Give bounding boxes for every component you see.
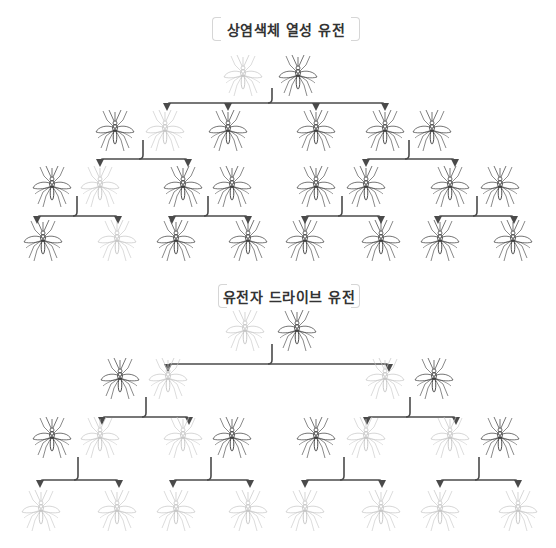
arrow-icon	[172, 216, 175, 220]
mosquito-carrier-icon	[481, 417, 519, 458]
mosquito-non-carrier-icon	[98, 220, 136, 261]
mosquito-carrier-icon	[297, 166, 335, 207]
mosquito-non-carrier-icon	[347, 417, 385, 458]
mosquito-carrier-icon	[494, 220, 532, 261]
arrow-icon	[185, 159, 188, 163]
mosquito-carrier-icon	[415, 358, 453, 399]
arrow-icon	[167, 103, 170, 107]
mosquito-carrier-icon	[421, 220, 459, 261]
branch-connector	[440, 457, 518, 484]
mosquito-carrier-icon	[362, 220, 400, 261]
arrow-icon	[245, 216, 248, 220]
mosquito-non-carrier-icon	[81, 166, 119, 207]
mosquito-carrier-icon	[213, 417, 251, 458]
branch-connector	[168, 344, 389, 368]
mosquito-carrier-icon	[209, 110, 247, 151]
mosquito-carrier-icon	[431, 166, 469, 207]
branch-connector	[167, 88, 385, 107]
mosquito-non-carrier-icon	[229, 490, 267, 531]
branch-connector	[367, 397, 456, 421]
mosquito-carrier-icon	[213, 166, 251, 207]
branch-connector	[100, 140, 188, 163]
mosquito-non-carrier-icon	[362, 490, 400, 531]
branch-connector	[305, 457, 382, 484]
mosquito-carrier-icon	[33, 417, 71, 458]
mosquito-carrier-icon	[24, 220, 62, 261]
arrow-icon	[305, 480, 308, 484]
mosquito-population	[22, 55, 537, 531]
arrow-icon	[100, 159, 103, 163]
mosquito-carrier-icon	[366, 110, 404, 151]
arrow-icon	[367, 417, 370, 421]
mosquito-non-carrier-icon	[146, 110, 184, 151]
mosquito-non-carrier-icon	[226, 310, 264, 351]
arrow-icon	[379, 480, 382, 484]
mosquito-carrier-icon	[347, 166, 385, 207]
arrow-icon	[511, 216, 514, 220]
mosquito-non-carrier-icon	[421, 490, 459, 531]
mosquito-carrier-icon	[279, 55, 317, 96]
mosquito-non-carrier-icon	[431, 417, 469, 458]
arrow-icon	[440, 480, 443, 484]
mosquito-carrier-icon	[33, 166, 71, 207]
arrow-icon	[173, 480, 176, 484]
mosquito-carrier-icon	[286, 220, 324, 261]
arrow-icon	[382, 103, 385, 107]
mosquito-carrier-icon	[164, 166, 202, 207]
arrow-icon	[452, 159, 455, 163]
mosquito-carrier-icon	[413, 110, 451, 151]
arrow-icon	[305, 216, 308, 220]
branch-connector	[37, 196, 118, 220]
mosquito-carrier-icon	[278, 310, 316, 351]
arrow-icon	[247, 480, 250, 484]
inheritance-tree-diagram	[0, 0, 556, 548]
branch-connector	[102, 397, 189, 421]
arrow-icon	[378, 216, 381, 220]
arrow-icon	[366, 159, 369, 163]
mosquito-carrier-icon	[297, 110, 335, 151]
arrow-icon	[115, 216, 118, 220]
mosquito-carrier-icon	[297, 417, 335, 458]
mosquito-carrier-icon	[229, 220, 267, 261]
arrow-icon	[438, 216, 441, 220]
arrow-icon	[37, 216, 40, 220]
arrow-icon	[515, 480, 518, 484]
mosquito-non-carrier-icon	[224, 55, 262, 96]
mosquito-carrier-icon	[96, 110, 134, 151]
mosquito-non-carrier-icon	[157, 490, 195, 531]
branch-connector	[173, 457, 250, 484]
mosquito-non-carrier-icon	[286, 490, 324, 531]
mosquito-non-carrier-icon	[499, 490, 537, 531]
mosquito-carrier-icon	[481, 166, 519, 207]
mosquito-non-carrier-icon	[81, 417, 119, 458]
branch-connector	[40, 457, 119, 484]
branch-connector	[366, 140, 455, 163]
mosquito-non-carrier-icon	[164, 417, 202, 458]
arrow-icon	[116, 480, 119, 484]
mosquito-carrier-icon	[157, 220, 195, 261]
arrow-icon	[40, 480, 43, 484]
mosquito-non-carrier-icon	[98, 490, 136, 531]
mosquito-non-carrier-icon	[22, 490, 60, 531]
mosquito-carrier-icon	[101, 358, 139, 399]
